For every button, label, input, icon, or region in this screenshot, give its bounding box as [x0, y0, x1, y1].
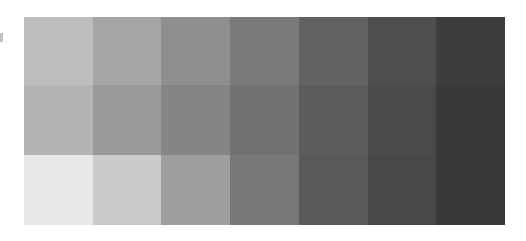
swatch-cell-r1-c4 — [230, 17, 299, 85]
swatch-cell-r2-c7 — [436, 85, 505, 155]
swatch-cell-r3-c5 — [299, 155, 368, 225]
swatch-cell-r1-c7 — [436, 17, 505, 85]
swatch-cell-r2-c5 — [299, 85, 368, 155]
swatch-cell-r1-c6 — [368, 17, 437, 85]
swatch-cell-r1-c2 — [93, 17, 162, 85]
swatch-cell-r1-c3 — [161, 17, 230, 85]
swatch-cell-r2-c6 — [368, 85, 437, 155]
swatch-cell-r3-c4 — [230, 155, 299, 225]
edge-mark — [0, 33, 3, 42]
swatch-cell-r2-c2 — [93, 85, 162, 155]
swatch-cell-r1-c1 — [24, 17, 93, 85]
swatch-cell-r3-c2 — [93, 155, 162, 225]
swatch-cell-r1-c5 — [299, 17, 368, 85]
swatch-cell-r3-c1 — [24, 155, 93, 225]
swatch-cell-r2-c1 — [24, 85, 93, 155]
swatch-cell-r2-c3 — [161, 85, 230, 155]
swatch-cell-r3-c3 — [161, 155, 230, 225]
swatch-cell-r3-c7 — [436, 155, 505, 225]
grayscale-swatch-grid — [24, 17, 505, 225]
swatch-cell-r3-c6 — [368, 155, 437, 225]
swatch-cell-r2-c4 — [230, 85, 299, 155]
